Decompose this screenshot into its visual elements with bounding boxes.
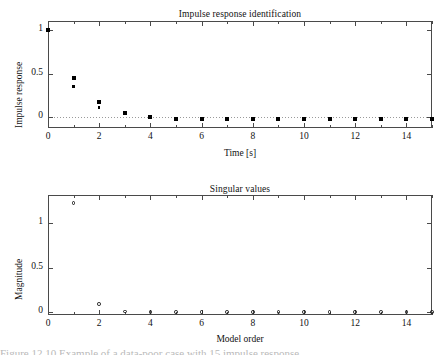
x-minor-tick [176,195,177,198]
data-point-marker [277,310,281,314]
data-point-marker [47,28,50,31]
x-tick-label: 2 [79,318,119,328]
impulse-response-title: Impulse response identification [48,9,432,19]
x-tick [355,123,356,128]
y-tick [427,223,432,224]
data-point-marker [379,310,383,314]
x-minor-tick [227,125,228,128]
singular-values-axes [48,195,432,315]
data-point-marker [405,117,408,120]
x-tick-label: 0 [28,131,68,141]
singular-values-xlabel: Model order [48,334,432,344]
x-tick-label: 12 [335,131,375,141]
x-tick [355,195,356,200]
x-tick-label: 0 [28,318,68,328]
x-minor-tick [74,125,75,128]
x-minor-tick [278,125,279,128]
x-tick-label: 6 [182,318,222,328]
x-tick [48,21,49,26]
singular-values-title: Singular values [48,184,432,194]
x-minor-tick [432,125,433,128]
x-tick [406,123,407,128]
data-point-marker [277,117,280,120]
y-tick [427,268,432,269]
x-tick [150,21,151,26]
x-tick [150,195,151,200]
x-tick [253,21,254,26]
x-tick [253,195,254,200]
x-minor-tick [125,125,126,128]
x-tick [202,21,203,26]
x-tick-label: 4 [130,318,170,328]
figure-caption-partial: Figure 12.10 Example of a data-poor case… [0,347,445,355]
data-point-marker [353,310,357,314]
x-tick-label: 14 [386,131,426,141]
data-point-marker [97,100,101,104]
x-tick-label: 8 [233,318,273,328]
x-minor-tick [227,21,228,24]
x-tick [355,21,356,26]
x-minor-tick [125,195,126,198]
y-tick [48,268,53,269]
data-point-marker [328,117,331,120]
x-tick [99,310,100,315]
data-point-marker [405,310,409,314]
zero-reference-line [48,117,432,118]
y-tick-label: 1 [2,23,43,33]
data-point-marker [430,310,434,314]
data-point-marker [97,302,101,306]
x-minor-tick [330,21,331,24]
x-tick [304,195,305,200]
x-tick-label: 12 [335,318,375,328]
x-minor-tick [432,21,433,24]
y-tick-label: 1 [2,216,43,226]
x-tick-label: 14 [386,318,426,328]
x-minor-tick [330,195,331,198]
x-tick [304,123,305,128]
x-minor-tick [176,125,177,128]
impulse-response-xlabel: Time [s] [48,148,432,158]
impulse-response-ylabel: Impulse response [14,62,24,128]
x-minor-tick [330,125,331,128]
data-point-marker [149,310,153,314]
x-minor-tick [74,21,75,24]
x-tick [304,21,305,26]
data-point-marker [124,113,127,116]
x-tick-label: 6 [182,131,222,141]
y-tick [48,223,53,224]
data-point-marker [303,117,306,120]
data-point-marker [98,106,101,109]
data-point-marker [200,310,204,314]
x-tick [253,123,254,128]
y-tick [48,74,53,75]
y-tick-label: 0 [2,305,43,315]
data-point-marker [174,310,178,314]
data-point-marker [200,117,203,120]
x-minor-tick [278,195,279,198]
x-tick [406,21,407,26]
y-tick [427,74,432,75]
data-point-marker [123,310,127,314]
data-point-marker [225,310,229,314]
x-minor-tick [381,195,382,198]
x-tick-label: 10 [284,318,324,328]
data-point-marker [302,310,306,314]
data-point-marker [252,117,255,120]
x-tick [99,123,100,128]
x-minor-tick [381,125,382,128]
x-tick-label: 8 [233,131,273,141]
x-minor-tick [125,21,126,24]
x-minor-tick [74,195,75,198]
data-point-marker [175,117,178,120]
figure-container: Impulse response identification 02468101… [0,0,445,355]
x-tick-label: 4 [130,131,170,141]
x-tick [150,123,151,128]
x-tick [48,123,49,128]
y-tick [427,30,432,31]
singular-values-ylabel: Magnitude [14,259,24,300]
x-minor-tick [381,21,382,24]
y-tick [48,117,53,118]
data-point-marker [354,117,357,120]
x-minor-tick [432,195,433,198]
data-point-marker [72,76,76,80]
